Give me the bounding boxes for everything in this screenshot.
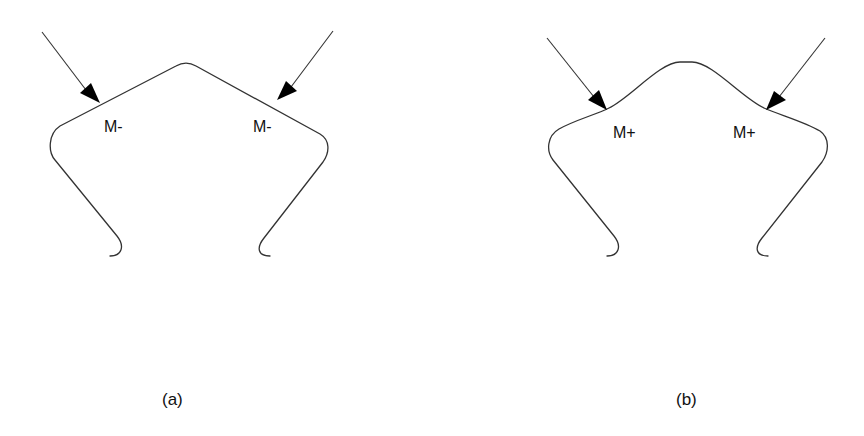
arrow-shaft (291, 31, 333, 87)
panel-b-outline (549, 62, 828, 256)
label-a-left: M- (104, 118, 123, 135)
label-b-right: M+ (733, 124, 756, 141)
left-arrow-a (42, 32, 100, 103)
panel-b: M+ M+ (b) (547, 38, 827, 409)
left-arrow-b (547, 38, 607, 110)
panel-a: M- M- (a) (42, 31, 333, 409)
right-arrow-b (766, 38, 825, 110)
label-b-left: M+ (613, 124, 636, 141)
arrow-shaft (547, 38, 594, 97)
arrow-shaft (42, 32, 86, 90)
caption-b: (b) (676, 390, 697, 409)
arrow-head (766, 91, 786, 110)
caption-a: (a) (162, 390, 183, 409)
arrow-shaft (779, 38, 825, 97)
figure-canvas: M- M- (a) M+ M+ (b) (0, 0, 864, 436)
label-a-right: M- (253, 118, 272, 135)
right-arrow-a (277, 31, 333, 100)
